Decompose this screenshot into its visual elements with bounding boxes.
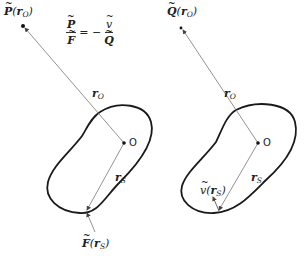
subscript: S (216, 189, 221, 198)
right-r-o-label: rO (224, 88, 236, 101)
subscript: S (121, 176, 126, 185)
left-point-label: P(rO) (4, 6, 33, 19)
right-panel (180, 27, 296, 213)
f-tilde-symbol: F (82, 238, 90, 249)
p-tilde-symbol: P (4, 6, 12, 17)
right-point-label: Q(rO) (167, 6, 197, 19)
equals-minus: = − (79, 26, 101, 39)
right-origin-dot (256, 141, 260, 145)
diagram-canvas (0, 0, 304, 256)
subscript: O (22, 10, 28, 19)
lhs-denominator: F (67, 33, 75, 47)
right-normal-label: v(rS) (200, 185, 226, 198)
subscript: S (257, 176, 262, 185)
left-origin-label: O (129, 137, 137, 148)
ratio-equation: P F = − v Q (66, 18, 114, 47)
right-r-s-label: rS (251, 172, 262, 185)
right-normal-arrow (213, 197, 219, 211)
left-source-point (21, 24, 25, 28)
left-panel (21, 24, 152, 232)
subscript: O (187, 10, 193, 19)
subscript: S (100, 242, 105, 251)
v-tilde-symbol: v (200, 185, 206, 196)
left-r-o-label: rO (92, 88, 104, 101)
right-r-o-vector (183, 30, 258, 143)
left-r-s-label: rS (115, 172, 126, 185)
subscript: O (98, 92, 104, 101)
rhs-fraction: v Q (104, 18, 114, 47)
right-origin-label: O (263, 137, 271, 148)
rhs-denominator: Q (104, 33, 114, 47)
subscript: O (230, 92, 236, 101)
right-surface-boundary (181, 104, 296, 213)
right-field-point (180, 27, 183, 30)
lhs-fraction: P F (66, 18, 76, 47)
left-surface-label: F(rS) (82, 238, 109, 251)
q-tilde-symbol: Q (167, 6, 177, 17)
left-surface-boundary (47, 105, 152, 213)
left-origin-dot (122, 141, 126, 145)
